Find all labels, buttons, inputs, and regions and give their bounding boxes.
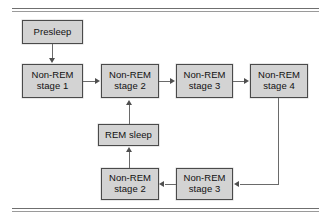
edge-rem-to-stage2top-arrowhead <box>126 100 132 105</box>
node-non-rem-stage-3-bottom[interactable]: Non-REM stage 3 <box>176 168 233 200</box>
edge-presleep-to-stage1-arrowhead <box>49 58 55 63</box>
edge-stage2bottom-to-rem-arrowhead <box>126 147 132 152</box>
node-presleep-line1: Presleep <box>34 27 72 38</box>
node-non-rem-stage-2-top-line2: stage 2 <box>114 81 146 92</box>
node-non-rem-stage-4-line2: stage 4 <box>263 81 295 92</box>
node-rem-sleep[interactable]: REM sleep <box>98 124 159 146</box>
node-presleep[interactable]: Presleep <box>22 20 83 44</box>
node-non-rem-stage-1-line2: stage 1 <box>37 81 69 92</box>
edge-stage4-to-stage3bottom-arrowhead <box>234 181 239 187</box>
sleep-cycle-diagram: Presleep Non-REM stage 1 Non-REM stage 2… <box>0 0 331 221</box>
edge-stage4-to-stage3bottom-horizontal <box>240 184 279 185</box>
top-rule-lower <box>12 11 319 12</box>
top-rule-upper <box>12 8 319 9</box>
node-non-rem-stage-1[interactable]: Non-REM stage 1 <box>22 64 83 98</box>
edge-stage4-to-stage3bottom-vertical <box>278 98 279 184</box>
node-non-rem-stage-2-top[interactable]: Non-REM stage 2 <box>101 64 159 98</box>
edge-stage2-to-stage3-arrowhead <box>170 78 175 84</box>
edge-stage3bottom-to-stage2bottom-line <box>165 184 176 185</box>
edge-stage3bottom-to-stage2bottom-arrowhead <box>159 181 164 187</box>
node-non-rem-stage-3-top[interactable]: Non-REM stage 3 <box>176 64 233 98</box>
edge-stage2bottom-to-rem-line <box>129 152 130 168</box>
node-non-rem-stage-3-top-line2: stage 3 <box>189 81 221 92</box>
edge-presleep-to-stage1-line <box>52 44 53 59</box>
bottom-rule-lower <box>12 211 319 212</box>
bottom-rule-upper <box>12 208 319 209</box>
node-non-rem-stage-3-bottom-line2: stage 3 <box>189 184 221 195</box>
node-non-rem-stage-4[interactable]: Non-REM stage 4 <box>250 64 308 98</box>
node-non-rem-stage-2-bottom-line2: stage 2 <box>114 184 146 195</box>
node-non-rem-stage-2-bottom[interactable]: Non-REM stage 2 <box>101 168 159 200</box>
edge-stage1-to-stage2-arrowhead <box>95 78 100 84</box>
edge-rem-to-stage2top-line <box>129 105 130 124</box>
node-rem-sleep-line1: REM sleep <box>105 130 152 141</box>
edge-stage3-to-stage4-arrowhead <box>244 78 249 84</box>
